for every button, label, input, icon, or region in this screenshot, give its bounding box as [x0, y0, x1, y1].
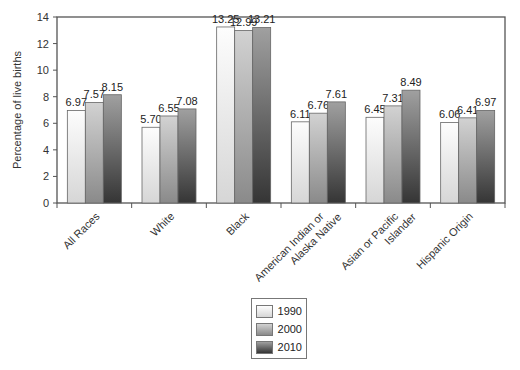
bar-2000: [160, 116, 178, 203]
svg-text:Black: Black: [224, 210, 252, 238]
plot-area: [57, 17, 505, 203]
bar-2010: [253, 27, 271, 203]
y-tick-label: 8: [43, 91, 49, 103]
bar-1990: [67, 110, 85, 203]
legend-swatch-2000: [256, 323, 273, 336]
bar-1990: [291, 122, 309, 203]
y-tick-label: 0: [43, 197, 49, 209]
legend-item-2010: 2010: [256, 338, 302, 356]
value-label: 13.21: [248, 13, 276, 25]
value-label: 6.76: [308, 99, 329, 111]
bar-2010: [402, 90, 420, 203]
bar-2000: [309, 113, 327, 203]
bar-2000: [384, 106, 402, 203]
value-label: 5.70: [140, 113, 161, 125]
y-tick-label: 10: [37, 64, 49, 76]
svg-text:White: White: [148, 210, 176, 238]
x-axis: All RacesWhiteBlackAmerican Indian orAla…: [57, 201, 505, 293]
value-label: 8.49: [400, 76, 421, 88]
bar-2010: [477, 110, 495, 203]
legend-swatch-2010: [256, 341, 273, 354]
svg-text:All Races: All Races: [60, 210, 102, 252]
value-label: 7.61: [326, 88, 347, 100]
x-category-label: Hispanic Origin: [414, 210, 475, 271]
bar-2010: [178, 109, 196, 203]
legend-item-1990: 1990: [256, 302, 302, 320]
y-tick-label: 6: [43, 117, 49, 129]
bar-2010: [327, 102, 345, 203]
y-tick-label: 12: [37, 38, 49, 50]
x-category-label: Asian or PacificIslander: [338, 201, 418, 281]
value-label: 6.97: [475, 96, 496, 108]
legend-swatch-1990: [256, 305, 273, 318]
x-category-label: Black: [224, 210, 252, 238]
value-label: 6.45: [364, 103, 385, 115]
legend-label: 2000: [278, 323, 302, 335]
legend-label: 1990: [278, 305, 302, 317]
legend-item-2000: 2000: [256, 320, 302, 338]
bar-1990: [441, 122, 459, 203]
y-tick-label: 14: [37, 11, 49, 23]
y-axis: 02468101214: [37, 11, 57, 209]
x-category-label: White: [148, 210, 176, 238]
value-label: 7.08: [176, 95, 197, 107]
svg-text:Hispanic Origin: Hispanic Origin: [414, 210, 475, 271]
bar-2010: [103, 95, 121, 203]
x-category-label: American Indian orAlaska Native: [252, 201, 343, 292]
bar-1990: [366, 117, 384, 203]
bar-1990: [217, 27, 235, 203]
legend-label: 2010: [278, 341, 302, 353]
bar-2000: [235, 30, 253, 203]
y-tick-label: 4: [43, 144, 49, 156]
bar-1990: [142, 127, 160, 203]
bar-2000: [459, 118, 477, 203]
legend: 1990 2000 2010: [251, 298, 307, 359]
bar-2000: [85, 102, 103, 203]
y-axis-title: Percentage of live births: [11, 50, 23, 169]
y-tick-label: 2: [43, 170, 49, 182]
value-label: 8.15: [102, 81, 123, 93]
x-category-label: All Races: [60, 210, 102, 252]
value-label: 7.31: [382, 92, 403, 104]
